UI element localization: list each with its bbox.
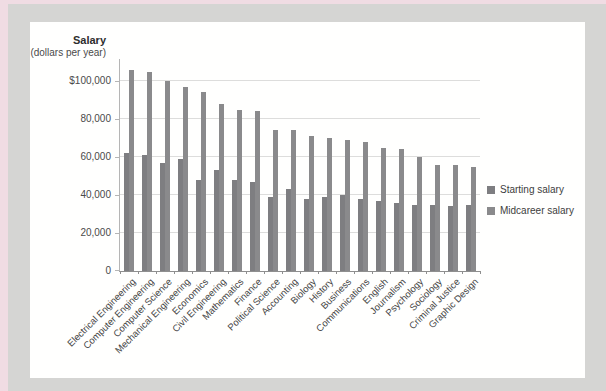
legend-swatch-midcareer-salary [487,207,495,215]
y-axis-tick-label: 60,000 [80,151,111,163]
bar-midcareer-salary [309,136,314,271]
x-axis-tick [138,271,139,274]
legend-label-midcareer-salary: Midcareer salary [500,205,574,216]
bar-midcareer-salary [363,142,368,271]
legend-label-starting-salary: Starting salary [500,184,564,195]
y-axis-tick-label: 80,000 [80,113,111,125]
x-axis-tick [174,271,175,274]
chart-panel: Salary (dollars per year) $100,00080,000… [30,22,585,378]
bar-midcareer-salary [381,148,386,272]
y-axis-tick-label: 20,000 [80,227,111,239]
y-axis-tick [115,157,119,158]
x-axis-tick [426,271,427,274]
x-axis-tick [318,271,319,274]
bar-midcareer-salary [471,167,476,272]
x-axis-tick [156,271,157,274]
y-axis-tick [115,119,119,120]
chart-title-block: Salary (dollars per year) [30,34,106,59]
x-axis-tick [354,271,355,274]
y-axis-labels: $100,00080,00060,00040,00020,0000 [30,59,111,271]
gridline [120,232,480,233]
bar-midcareer-salary [237,110,242,272]
y-axis-tick-label: 40,000 [80,189,111,201]
bar-midcareer-salary [291,130,296,271]
x-axis-tick [210,271,211,274]
bar-midcareer-salary [183,87,188,271]
y-axis-tick-label: $100,000 [69,75,111,87]
x-axis-tick [462,271,463,274]
x-axis-tick [120,271,121,274]
figure-background: Salary (dollars per year) $100,00080,000… [8,4,606,391]
x-axis-tick [444,271,445,274]
gridline [120,80,480,81]
x-axis-tick [408,271,409,274]
x-axis-tick [336,271,337,274]
x-axis-tick [264,271,265,274]
x-axis-tick [192,271,193,274]
y-axis-tick [115,270,119,271]
bar-midcareer-salary [147,72,152,272]
bar-midcareer-salary [273,130,278,271]
x-axis-tick [372,271,373,274]
page: { "chart_data": { "type": "bar", "title"… [0,0,606,391]
x-axis-tick [390,271,391,274]
gridline [120,194,480,195]
bar-midcareer-salary [165,81,170,271]
x-axis-tick [246,271,247,274]
bar-midcareer-salary [219,104,224,271]
gridline [120,156,480,157]
chart-subtitle: (dollars per year) [30,47,106,59]
x-axis-tick [228,271,229,274]
legend-item-starting-salary: Starting salary [487,184,574,195]
bar-midcareer-salary [453,165,458,271]
bar-midcareer-salary [129,70,134,271]
bar-midcareer-salary [201,92,206,271]
legend: Starting salary Midcareer salary [487,184,574,226]
legend-swatch-starting-salary [487,186,495,194]
y-axis-tick [115,195,119,196]
gridline [120,118,480,119]
y-axis-tick [115,233,119,234]
x-axis-tick [300,271,301,274]
x-axis-tick [282,271,283,274]
bar-midcareer-salary [417,157,422,271]
bar-midcareer-salary [345,140,350,271]
chart-title: Salary [30,34,106,47]
bar-midcareer-salary [435,165,440,271]
bar-midcareer-salary [399,149,404,271]
y-axis-tick [115,81,119,82]
legend-item-midcareer-salary: Midcareer salary [487,205,574,216]
plot-area: Electrical EngineeringComputer Engineeri… [119,59,480,272]
y-axis-tick-label: 0 [105,265,111,277]
x-axis-tick [480,271,481,274]
bar-midcareer-salary [255,111,260,271]
bar-midcareer-salary [327,138,332,271]
